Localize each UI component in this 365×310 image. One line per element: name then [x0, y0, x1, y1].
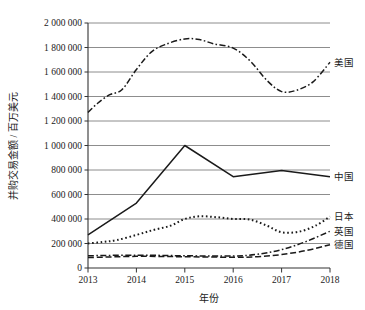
series-label-中国: 中国	[334, 171, 354, 182]
series-label-日本: 日本	[334, 211, 354, 222]
y-tick-label: 1 200 000	[44, 116, 82, 126]
x-axis-title: 年份	[199, 292, 219, 304]
y-tick-label: 200 000	[51, 239, 82, 249]
y-tick-label: 1 400 000	[44, 92, 82, 102]
y-tick-label: 1 600 000	[44, 67, 82, 77]
series-label-美国: 美国	[334, 57, 354, 68]
y-tick-label: 0	[77, 263, 82, 273]
y-tick-label: 1 800 000	[44, 43, 82, 53]
x-tick-label: 2015	[175, 275, 194, 285]
y-tick-label: 800 000	[51, 165, 82, 175]
merger-acquisition-line-chart: 0200 000400 000600 000800 0001 000 0001 …	[0, 0, 365, 310]
chart-container: 0200 000400 000600 000800 0001 000 0001 …	[0, 0, 365, 310]
y-tick-label: 400 000	[51, 214, 82, 224]
y-tick-label: 600 000	[51, 190, 82, 200]
x-tick-label: 2017	[272, 275, 291, 285]
y-tick-label: 2 000 000	[44, 18, 82, 28]
series-label-德国: 德国	[334, 239, 354, 250]
y-tick-label: 1 000 000	[44, 141, 82, 151]
x-tick-label: 2018	[321, 275, 340, 285]
x-tick-label: 2016	[224, 275, 243, 285]
x-tick-label: 2014	[127, 275, 146, 285]
y-axis-title: 并购交易金额 / 百万美元	[7, 92, 19, 200]
series-label-英国: 英国	[334, 226, 354, 237]
x-tick-label: 2013	[79, 275, 98, 285]
